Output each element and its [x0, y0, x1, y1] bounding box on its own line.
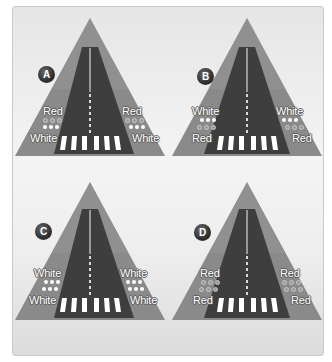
- red-light-icon: [201, 280, 206, 285]
- white-light-icon: [128, 287, 132, 291]
- left-lower-label: White: [30, 132, 57, 144]
- right-lower-label: White: [132, 132, 159, 144]
- panel-badge: C: [35, 223, 52, 240]
- white-light-icon: [126, 280, 130, 284]
- panel-badge: D: [194, 224, 211, 241]
- red-light-icon: [298, 287, 303, 292]
- left-upper-label: White: [34, 267, 61, 279]
- white-light-icon: [140, 287, 144, 291]
- white-light-icon: [42, 287, 46, 291]
- panel-d: D Red Red Red Red: [170, 178, 330, 348]
- left-upper-light-row: [200, 118, 216, 122]
- right-upper-light-row: [125, 118, 144, 123]
- white-light-icon: [212, 118, 216, 122]
- panel-badge: B: [197, 68, 214, 85]
- left-lower-label: Red: [192, 132, 212, 144]
- right-lower-label: Red: [292, 132, 312, 144]
- left-lower-light-row: [197, 125, 216, 130]
- panel-a: A Red White Red White: [12, 14, 172, 184]
- right-lower-label: Red: [291, 294, 311, 306]
- white-light-icon: [134, 287, 138, 291]
- white-light-icon: [135, 125, 139, 129]
- white-light-icon: [138, 280, 142, 284]
- red-light-icon: [296, 280, 301, 285]
- red-light-icon: [292, 125, 297, 130]
- right-upper-label: White: [276, 105, 303, 117]
- figure-caption-cropped: [0, 356, 332, 362]
- red-light-icon: [289, 280, 294, 285]
- red-light-icon: [299, 125, 304, 130]
- white-light-icon: [43, 125, 47, 129]
- white-light-icon: [200, 118, 204, 122]
- right-lower-label: White: [130, 294, 157, 306]
- white-light-icon: [44, 280, 48, 284]
- white-light-icon: [282, 118, 286, 122]
- right-upper-light-row: [282, 118, 298, 122]
- red-light-icon: [139, 118, 144, 123]
- red-light-icon: [285, 125, 290, 130]
- red-light-icon: [132, 118, 137, 123]
- red-light-icon: [215, 280, 220, 285]
- panel-b: B White Red White Red: [170, 14, 330, 184]
- left-lower-light-row: [199, 287, 218, 292]
- white-light-icon: [141, 125, 145, 129]
- white-light-icon: [49, 125, 53, 129]
- right-upper-light-row: [126, 280, 142, 284]
- red-light-icon: [43, 118, 48, 123]
- right-upper-label: Red: [280, 267, 300, 279]
- red-light-icon: [206, 287, 211, 292]
- white-light-icon: [288, 118, 292, 122]
- right-lower-light-row: [128, 287, 144, 291]
- panel-badge: A: [38, 66, 55, 83]
- white-light-icon: [48, 287, 52, 291]
- white-light-icon: [129, 125, 133, 129]
- red-light-icon: [125, 118, 130, 123]
- red-light-icon: [213, 287, 218, 292]
- white-light-icon: [56, 280, 60, 284]
- white-light-icon: [55, 125, 59, 129]
- red-light-icon: [282, 280, 287, 285]
- red-light-icon: [211, 125, 216, 130]
- right-lower-light-row: [284, 287, 303, 292]
- white-light-icon: [206, 118, 210, 122]
- left-upper-light-row: [201, 280, 220, 285]
- white-light-icon: [54, 287, 58, 291]
- red-light-icon: [57, 118, 62, 123]
- right-upper-label: Red: [122, 105, 142, 117]
- left-upper-label: Red: [200, 267, 220, 279]
- right-upper-label: White: [120, 267, 147, 279]
- left-lower-label: Red: [193, 294, 213, 306]
- red-light-icon: [197, 125, 202, 130]
- red-light-icon: [199, 287, 204, 292]
- right-upper-light-row: [282, 280, 301, 285]
- red-light-icon: [291, 287, 296, 292]
- panel-c: C White White White White: [12, 178, 172, 348]
- left-lower-light-row: [43, 125, 59, 129]
- red-light-icon: [50, 118, 55, 123]
- right-lower-light-row: [285, 125, 304, 130]
- left-upper-light-row: [43, 118, 62, 123]
- red-light-icon: [284, 287, 289, 292]
- right-lower-light-row: [129, 125, 145, 129]
- left-upper-label: Red: [43, 105, 63, 117]
- left-lower-label: White: [29, 294, 56, 306]
- left-upper-light-row: [44, 280, 60, 284]
- left-lower-light-row: [42, 287, 58, 291]
- white-light-icon: [50, 280, 54, 284]
- white-light-icon: [132, 280, 136, 284]
- red-light-icon: [208, 280, 213, 285]
- red-light-icon: [204, 125, 209, 130]
- left-upper-label: White: [192, 105, 219, 117]
- white-light-icon: [294, 118, 298, 122]
